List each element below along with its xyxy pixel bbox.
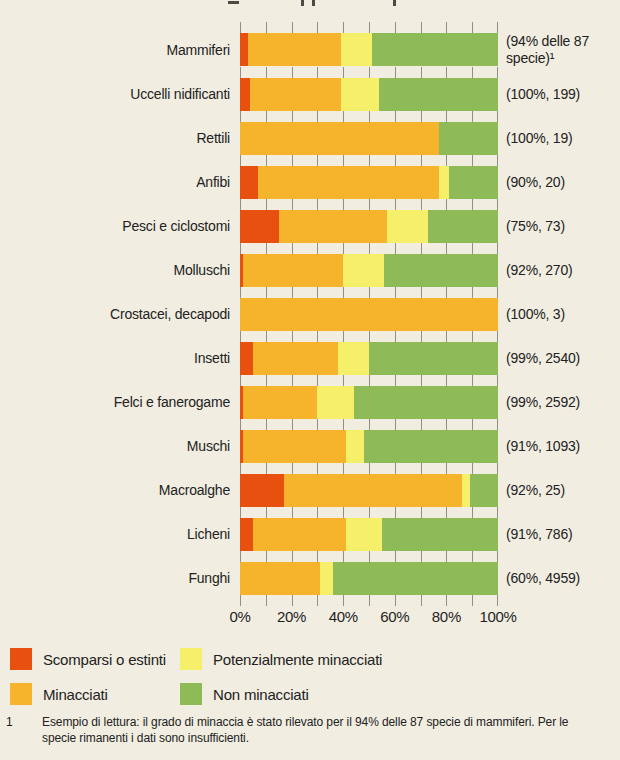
bar-segment-non-minacciati: [364, 430, 498, 463]
minor-tick: [446, 507, 447, 518]
minor-tick: [497, 595, 498, 606]
bar-segment-potenzialmente-minacciati: [387, 210, 428, 243]
minor-tick: [240, 595, 241, 606]
tick-strip: [240, 507, 498, 518]
tick-gap-row: [0, 199, 620, 210]
tick-strip: [240, 22, 498, 33]
minor-tick: [446, 463, 447, 474]
bar-segment-non-minacciati: [382, 518, 498, 551]
minor-tick: [292, 463, 293, 474]
minor-tick: [497, 375, 498, 386]
minor-tick: [369, 507, 370, 518]
tick-strip: [240, 243, 498, 254]
minor-tick: [395, 199, 396, 210]
minor-tick: [395, 331, 396, 342]
minor-tick: [472, 111, 473, 122]
bar-segment-minacciati: [279, 210, 387, 243]
minor-tick: [497, 67, 498, 78]
stacked-bar: [240, 298, 498, 331]
minor-tick: [395, 111, 396, 122]
bar-segment-non-minacciati: [333, 562, 498, 595]
minor-tick: [446, 22, 447, 33]
chart-footnote: 1 Esempio di lettura: il grado di minacc…: [6, 714, 606, 746]
bar-annotation: (92%, 25): [498, 474, 620, 507]
minor-tick: [343, 375, 344, 386]
minor-tick: [395, 243, 396, 254]
minor-tick: [292, 155, 293, 166]
minor-tick: [421, 419, 422, 430]
bar-annotation: (94% delle 87 specie)¹: [498, 33, 620, 67]
bar-annotation: (100%, 199): [498, 78, 620, 111]
stacked-bar: [240, 342, 498, 375]
bar-plot-area: [240, 298, 498, 331]
bar-row: Crostacei, decapodi (100%, 3): [0, 298, 620, 331]
tick-strip: [240, 111, 498, 122]
bar-plot-area: [240, 474, 498, 507]
bar-segment-potenzialmente-minacciati: [343, 254, 384, 287]
minor-tick: [472, 551, 473, 562]
footnote-marker: 1: [6, 714, 42, 746]
category-label: Muschi: [0, 430, 240, 463]
bar-segment-scomparsi-o-estinti: [240, 166, 258, 199]
minor-tick: [497, 199, 498, 210]
bar-segment-non-minacciati: [369, 342, 498, 375]
minor-tick: [472, 67, 473, 78]
bar-segment-non-minacciati: [449, 166, 498, 199]
legend-item: Minacciati: [10, 683, 180, 705]
minor-tick: [240, 463, 241, 474]
legend-item: Potenzialmente minacciati: [180, 648, 610, 670]
stacked-bar: [240, 33, 498, 66]
minor-tick: [421, 375, 422, 386]
minor-tick: [343, 22, 344, 33]
minor-tick: [292, 243, 293, 254]
tick-gap-row: [0, 111, 620, 122]
minor-tick: [343, 595, 344, 606]
category-label: Rettili: [0, 122, 240, 155]
minor-tick: [369, 111, 370, 122]
bar-annotation: (100%, 3): [498, 298, 620, 331]
minor-tick: [343, 111, 344, 122]
minor-tick: [395, 507, 396, 518]
chart-page: Mammiferi (94% delle 87 specie)¹ Uccelli…: [0, 0, 620, 760]
minor-tick: [292, 111, 293, 122]
bar-segment-potenzialmente-minacciati: [346, 430, 364, 463]
bar-segment-non-minacciati: [384, 254, 498, 287]
minor-tick: [369, 551, 370, 562]
tick-strip: [240, 551, 498, 562]
tick-strip: [240, 331, 498, 342]
tick-strip: [240, 199, 498, 210]
minor-tick: [317, 111, 318, 122]
minor-tick: [343, 199, 344, 210]
tick-strip: [240, 155, 498, 166]
minor-tick: [446, 155, 447, 166]
minor-tick: [421, 463, 422, 474]
bar-plot-area: [240, 386, 498, 419]
legend-label: Scomparsi o estinti: [43, 651, 166, 668]
category-label: Crostacei, decapodi: [0, 298, 240, 331]
legend-swatch: [10, 648, 32, 670]
bar-row: Mammiferi (94% delle 87 specie)¹: [0, 33, 620, 67]
minor-tick: [343, 67, 344, 78]
bar-plot-area: [240, 518, 498, 551]
minor-tick: [317, 463, 318, 474]
tick-gap-row: [0, 331, 620, 342]
minor-tick: [421, 22, 422, 33]
bar-plot-area: [240, 122, 498, 155]
bar-row: Muschi (91%, 1093): [0, 430, 620, 463]
minor-tick: [395, 155, 396, 166]
category-label: Macroalghe: [0, 474, 240, 507]
bar-plot-area: [240, 33, 498, 66]
minor-tick: [446, 243, 447, 254]
bar-row: Anfibi (90%, 20): [0, 166, 620, 199]
minor-tick: [292, 375, 293, 386]
minor-tick: [497, 287, 498, 298]
bar-annotation: (91%, 786): [498, 518, 620, 551]
minor-tick: [472, 199, 473, 210]
x-axis-tick-label: 0%: [229, 608, 250, 625]
minor-tick: [266, 67, 267, 78]
minor-tick: [369, 243, 370, 254]
minor-tick: [240, 551, 241, 562]
stacked-bar: [240, 386, 498, 419]
minor-tick: [317, 595, 318, 606]
category-label: Molluschi: [0, 254, 240, 287]
